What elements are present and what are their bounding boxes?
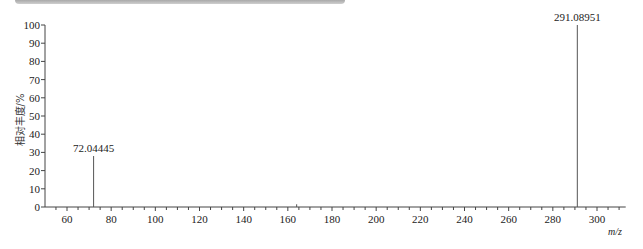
x-tick-label: 220	[412, 213, 429, 225]
peaks: 72.04445291.08951	[73, 11, 601, 207]
x-tick-label: 260	[500, 213, 517, 225]
x-tick-label: 280	[545, 213, 562, 225]
y-tick-label: 20	[29, 165, 41, 177]
x-tick-label: 80	[106, 213, 118, 225]
x-tick-label: 300	[589, 213, 606, 225]
y-tick-label: 70	[29, 74, 41, 86]
y-tick-label: 40	[29, 128, 41, 140]
x-tick-label: 200	[368, 213, 385, 225]
peak-label: 291.08951	[554, 11, 601, 23]
mass-spectrum-chart: 0102030405060708090100608010012014016018…	[0, 0, 643, 249]
y-tick-label: 100	[24, 19, 41, 31]
x-tick-label: 180	[324, 213, 341, 225]
x-axis-title: m/z	[608, 226, 622, 237]
x-tick-label: 100	[147, 213, 164, 225]
x-tick-label: 120	[191, 213, 208, 225]
y-tick-label: 80	[29, 55, 41, 67]
y-tick-label: 0	[35, 201, 41, 213]
y-tick-label: 10	[29, 183, 41, 195]
y-tick-label: 60	[29, 92, 41, 104]
peak-label: 72.04445	[73, 142, 115, 154]
x-tick-label: 60	[62, 213, 74, 225]
y-axis-title: 相对丰度/%	[14, 94, 26, 147]
x-tick-label: 140	[235, 213, 252, 225]
x-tick-label: 160	[280, 213, 297, 225]
y-tick-label: 50	[29, 110, 41, 122]
y-tick-label: 90	[29, 37, 41, 49]
x-tick-label: 240	[456, 213, 473, 225]
axes: 0102030405060708090100608010012014016018…	[24, 19, 626, 225]
y-tick-label: 30	[29, 146, 41, 158]
